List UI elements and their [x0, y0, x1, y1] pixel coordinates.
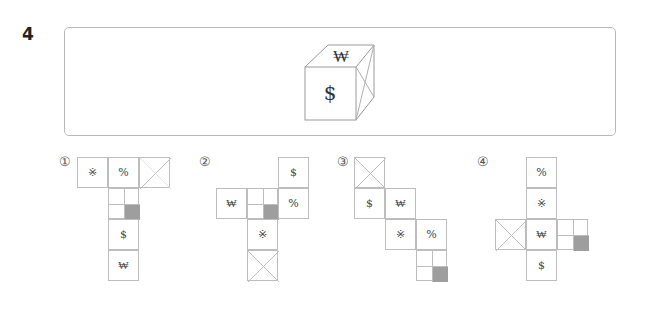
net-face-symbol: %: [108, 157, 139, 188]
net-face-symbol: %: [526, 157, 557, 188]
cube-top-symbol: ₩: [329, 46, 353, 67]
face-symbol: ※: [258, 228, 267, 241]
net-face-symbol: ※: [526, 188, 557, 219]
cube-front-symbol: $: [318, 81, 342, 105]
face-symbol: ₩: [118, 259, 128, 272]
option-label-4[interactable]: ④: [477, 154, 489, 169]
face-symbol: ※: [537, 197, 546, 210]
face-symbol: ₩: [226, 197, 236, 210]
face-symbol: %: [536, 166, 546, 179]
net-face-symbol: ₩: [385, 188, 416, 219]
face-symbol: $: [290, 166, 297, 179]
option-label-2[interactable]: ②: [199, 154, 211, 169]
net-face-symbol: ※: [77, 157, 108, 188]
face-symbol: $: [366, 197, 373, 210]
net-face-symbol: $: [108, 219, 139, 250]
face-symbol: ※: [396, 228, 405, 241]
face-symbol: $: [538, 259, 545, 272]
face-symbol: ※: [88, 166, 97, 179]
face-symbol: ₩: [536, 228, 546, 241]
face-symbol: $: [120, 228, 127, 241]
net-face-shaded-quadrant-icon: [557, 219, 588, 250]
net-face-x-cross-icon: [247, 250, 278, 281]
face-symbol: ₩: [395, 197, 405, 210]
net-face-x-cross-icon: [354, 157, 385, 188]
option-label-1[interactable]: ①: [59, 154, 71, 169]
option-label-3[interactable]: ③: [337, 154, 349, 169]
net-face-shaded-quadrant-icon: [416, 250, 447, 281]
net-face-symbol: $: [278, 157, 309, 188]
net-face-symbol: ₩: [526, 219, 557, 250]
net-face-symbol: $: [354, 188, 385, 219]
net-face-x-cross-icon: [139, 157, 170, 188]
net-face-shaded-quadrant-icon: [108, 188, 139, 219]
net-face-shaded-quadrant-icon: [247, 188, 278, 219]
net-face-x-cross-icon: [495, 219, 526, 250]
net-face-symbol: $: [526, 250, 557, 281]
net-face-symbol: ₩: [108, 250, 139, 281]
face-symbol: %: [118, 166, 128, 179]
face-symbol: %: [288, 197, 298, 210]
net-face-symbol: ※: [385, 219, 416, 250]
net-face-symbol: ※: [247, 219, 278, 250]
net-face-symbol: %: [416, 219, 447, 250]
net-face-symbol: %: [278, 188, 309, 219]
face-symbol: %: [426, 228, 436, 241]
net-face-symbol: ₩: [216, 188, 247, 219]
